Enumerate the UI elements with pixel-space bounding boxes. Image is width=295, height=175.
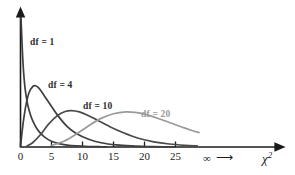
x-axis-title-exponent: 2 (268, 150, 273, 160)
curve-label-df1: df = 1 (30, 37, 55, 47)
curve-label-df20: df = 20 (141, 109, 171, 119)
chi-square-distribution-figure: df = 1 df = 4 df = 10 df = 20 0 5 10 15 … (0, 0, 295, 175)
chart-plot-area (0, 0, 295, 175)
infinity-symbol: ∞ (203, 152, 211, 164)
x-tick-label-20: 20 (135, 150, 155, 162)
x-tick-label-15: 15 (104, 150, 124, 162)
x-tick-label-5: 5 (42, 150, 62, 162)
x-tick-label-10: 10 (73, 150, 93, 162)
curve-df-20 (52, 112, 200, 146)
x-tick-label-0: 0 (11, 150, 31, 162)
infinity-arrow-icon: ⟶ (216, 150, 233, 165)
x-tick-label-25: 25 (166, 150, 186, 162)
curve-label-df10: df = 10 (83, 101, 113, 111)
curve-label-df4: df = 4 (48, 80, 73, 90)
x-axis-title: χ2 (262, 150, 272, 167)
